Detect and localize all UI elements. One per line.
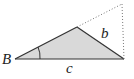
triangle-diagram: B b c	[0, 0, 134, 79]
side-b-label: b	[101, 25, 109, 41]
vertex-b-label: B	[2, 51, 11, 67]
side-c-label: c	[66, 60, 73, 76]
dotted-extension-line	[77, 4, 122, 27]
dotted-vertical-line	[122, 4, 124, 59]
